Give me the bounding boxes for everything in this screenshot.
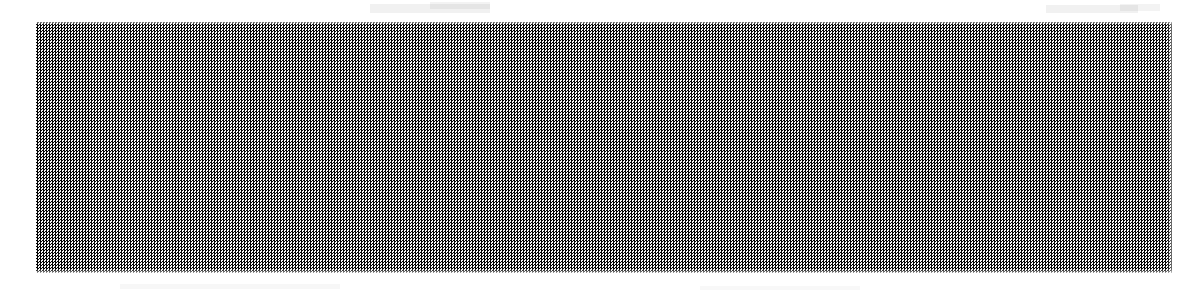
vertical-stripe <box>110 22 112 273</box>
vertical-stripe <box>350 22 355 273</box>
vertical-stripe <box>232 22 236 273</box>
scan-smudge <box>430 2 490 9</box>
vertical-stripe <box>372 22 380 273</box>
vertical-stripe <box>480 22 488 273</box>
scan-smudge <box>120 284 340 289</box>
vertical-striation-layer <box>36 22 1172 273</box>
vertical-stripe <box>328 22 335 273</box>
solid-black-left-block <box>36 22 90 273</box>
vertical-stripe <box>512 22 519 273</box>
vertical-stripe <box>104 22 108 273</box>
vertical-stripe <box>186 22 189 273</box>
vertical-stripe <box>548 22 557 273</box>
scan-smudge <box>700 286 860 290</box>
vertical-stripe <box>268 22 272 273</box>
vertical-stripe <box>250 22 257 273</box>
page-canvas <box>0 0 1197 296</box>
vertical-stripe <box>308 22 313 273</box>
vertical-stripe <box>174 22 179 273</box>
vertical-stripe <box>156 22 159 273</box>
vertical-stripe <box>450 22 456 273</box>
scan-smudge <box>1120 4 1160 11</box>
vertical-stripe <box>212 22 218 273</box>
scanned-figure-plate <box>36 22 1172 273</box>
vertical-stripe <box>396 22 402 273</box>
vertical-stripe <box>422 22 431 273</box>
vertical-stripe <box>288 22 296 273</box>
